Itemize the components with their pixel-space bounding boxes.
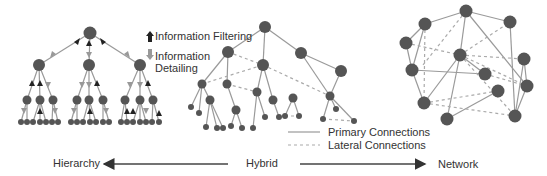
legend-filtering-label: Information Filtering xyxy=(155,30,252,42)
legend-lateral-label: Lateral Connections xyxy=(328,139,426,151)
axis-label-network: Network xyxy=(438,158,478,170)
detailing-arrow-icon xyxy=(148,49,152,55)
axis-label-hierarchy: Hierarchy xyxy=(53,157,100,169)
legend-primary-label: Primary Connections xyxy=(328,126,430,138)
diagram-canvas xyxy=(0,0,547,176)
legend-detailing-label-1: Information xyxy=(155,50,210,62)
filtering-arrow-icon xyxy=(146,31,154,36)
axis-label-hybrid: Hybrid xyxy=(246,157,278,169)
network-graph xyxy=(400,5,534,126)
legend-detailing-label-2: Detailing xyxy=(155,62,198,74)
